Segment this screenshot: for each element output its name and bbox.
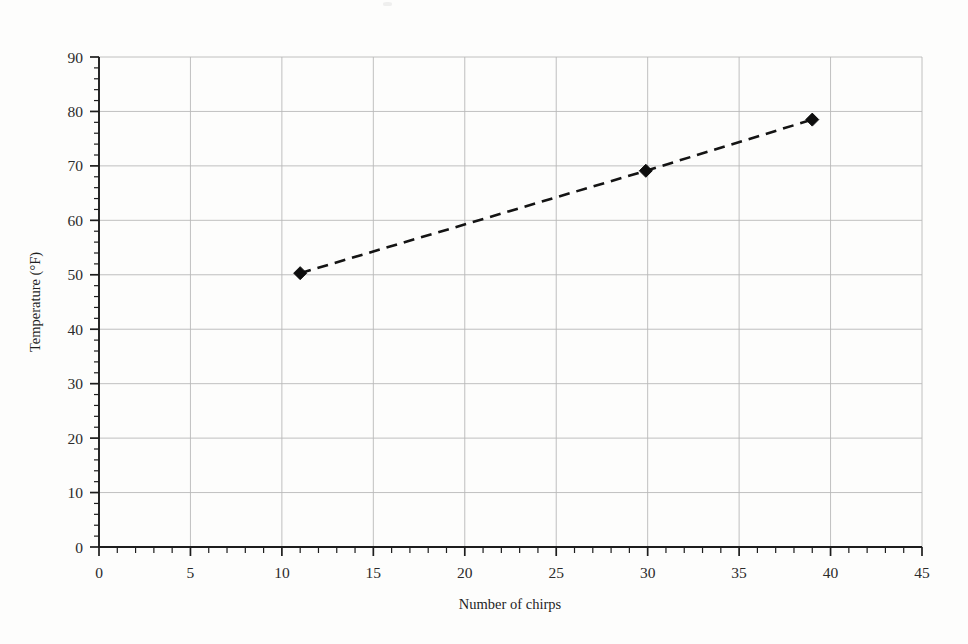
x-tick-label: 5 [187,564,195,581]
x-tick-label: 30 [640,564,656,581]
chart-figure: 0102030405060708090 051015202530354045 N… [0,0,968,644]
y-tick-label: 30 [68,375,84,392]
y-tick-label: 0 [75,539,83,556]
y-tick-label: 40 [68,321,84,338]
y-tick-label: 60 [68,212,84,229]
y-axis-title: Temperature (°F) [27,252,44,352]
x-tick-label: 20 [457,564,473,581]
y-tick-label: 10 [68,484,84,501]
y-tick-label: 80 [68,103,84,120]
x-axis-major-ticks [99,547,922,556]
x-axis-tick-labels: 051015202530354045 [95,564,930,581]
plot-area-background [99,57,922,547]
x-tick-label: 35 [731,564,747,581]
y-tick-label: 20 [68,430,84,447]
scan-artifact-speck [383,2,392,6]
y-tick-label: 50 [68,266,84,283]
x-tick-label: 45 [914,564,930,581]
y-tick-label: 70 [68,157,84,174]
x-tick-label: 25 [548,564,564,581]
chart-canvas: 0102030405060708090 051015202530354045 N… [0,0,968,644]
x-tick-label: 15 [366,564,382,581]
y-axis-major-ticks [90,57,99,547]
x-tick-label: 40 [823,564,839,581]
x-tick-label: 10 [274,564,290,581]
y-tick-label: 90 [68,49,84,66]
y-axis-tick-labels: 0102030405060708090 [68,49,84,556]
x-axis-title: Number of chirps [459,596,562,612]
x-tick-label: 0 [95,564,103,581]
